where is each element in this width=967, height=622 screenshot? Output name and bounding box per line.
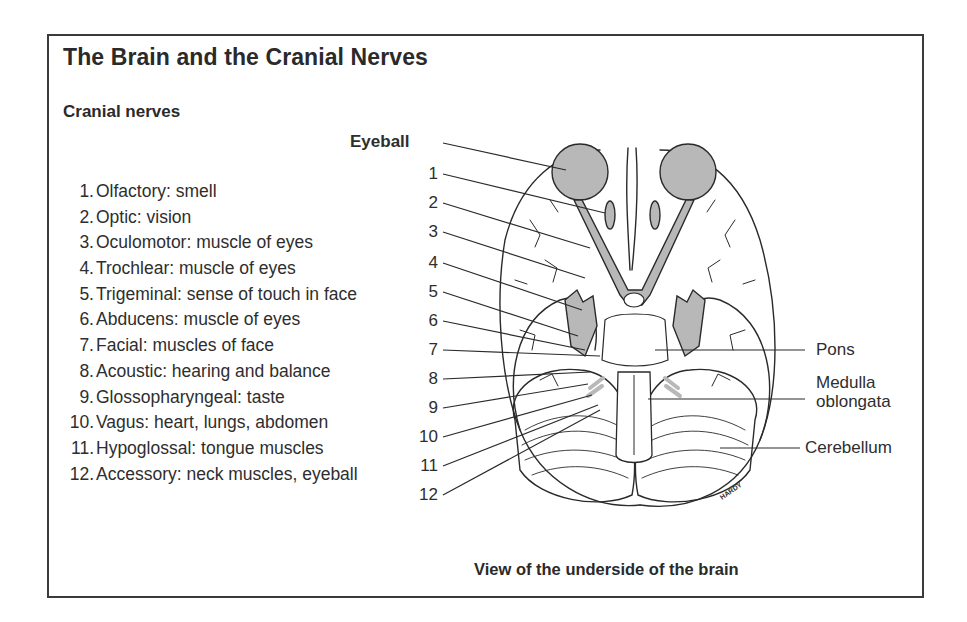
brain-underside-illustration: HARDY [0, 0, 967, 622]
medulla-label-line2: oblongata [816, 392, 891, 412]
leader-6 [443, 321, 585, 350]
callout-4: 4 [414, 253, 438, 273]
leader-3 [443, 232, 585, 278]
callout-6: 6 [414, 311, 438, 331]
leader-7 [443, 350, 600, 356]
artist-signature: HARDY [719, 481, 744, 501]
callout-11: 11 [414, 456, 438, 476]
cerebellum-label: Cerebellum [805, 438, 892, 458]
callout-2: 2 [414, 193, 438, 213]
eyeball-label: Eyeball [350, 132, 410, 152]
callout-5: 5 [414, 282, 438, 302]
leader-eyeball [443, 143, 566, 170]
left-eyeball [552, 144, 608, 200]
callout-12: 12 [414, 485, 438, 505]
leader-11 [443, 405, 598, 466]
olfactory-bulb [605, 201, 615, 229]
callout-10: 10 [414, 427, 438, 447]
right-eyeball [660, 144, 716, 200]
callout-7: 7 [414, 340, 438, 360]
callout-9: 9 [414, 398, 438, 418]
pons-label: Pons [816, 340, 855, 360]
leader-8 [443, 372, 590, 379]
callout-3: 3 [414, 222, 438, 242]
leader-12 [443, 410, 600, 495]
medulla-label-line1: Medulla [816, 373, 876, 393]
callout-8: 8 [414, 369, 438, 389]
leader-9 [443, 384, 588, 408]
callout-1: 1 [414, 164, 438, 184]
figure-caption: View of the underside of the brain [474, 560, 739, 579]
leader-5 [443, 292, 578, 336]
leader-2 [443, 203, 590, 248]
pons [602, 314, 668, 366]
